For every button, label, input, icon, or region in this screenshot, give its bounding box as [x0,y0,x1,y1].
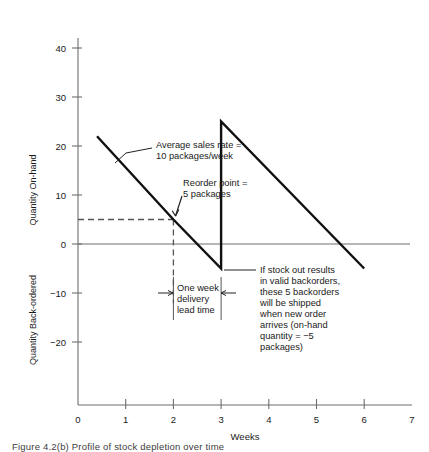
y-axis-title-lower: Quantity Back-ordered [28,275,38,365]
x-tick-label-2: 2 [171,414,176,425]
x-tick-label-7: 7 [409,414,414,425]
annot-stockout-line-7: quantity = −5 [260,331,314,341]
y-tick-label-minus-10: −10 [50,288,66,299]
annot-stockout-line-1: If stock out results [260,265,335,275]
annot-stockout-line-4: will be shipped [259,298,321,308]
x-tick-3: 3 [218,399,223,425]
annotation-reorder-point: Reorder point = 5 packages [172,178,247,216]
annotation-stock-out-backorders: If stock out results in valid backorders… [224,265,340,352]
x-tick-2: 2 [171,399,176,425]
annot-stockout-line-6: arrives (on-hand [260,320,328,330]
figure-caption: Figure 4.2(b) Profile of stock depletion… [12,441,224,452]
x-tick-6: 6 [362,399,367,425]
annot-reorder-line-1: Reorder point = [183,178,247,188]
x-tick-label-1: 1 [123,414,128,425]
annotation-average-sales-rate: Average sales rate = 10 packages/week [115,140,241,163]
annot-stockout-line-3: these 5 backorders [260,287,339,297]
annot-reorder-line-2: 5 packages [183,189,231,199]
y-tick-minus-10: −10 [50,288,82,299]
annot-lead-time-line-3: lead time [177,305,215,315]
x-tick-0: 0 [75,414,80,425]
annot-stockout-line-2: in valid backorders, [260,276,340,286]
x-tick-4: 4 [266,399,271,425]
y-axis-title-upper: Quantity On-hand [28,154,38,225]
x-tick-1: 1 [123,399,128,425]
annot-stockout-line-8: packages) [260,342,303,352]
x-tick-5: 5 [314,399,319,425]
x-tick-label-3: 3 [218,414,223,425]
y-tick-label-20: 20 [55,141,66,152]
annotation-delivery-lead-time: One week delivery lead time [158,277,236,320]
y-tick-label-10: 10 [55,190,66,201]
annot-sales-rate-line-2: 10 packages/week [156,151,233,161]
y-tick-label-0: 0 [61,239,66,250]
y-tick-label-30: 30 [55,92,66,103]
x-tick-label-4: 4 [266,414,271,425]
annot-stockout-line-5: when new order [259,309,326,319]
x-tick-label-0: 0 [75,414,80,425]
annot-lead-time-line-1: One week [177,283,219,293]
y-tick-label-minus-20: −20 [50,337,66,348]
annot-sales-rate-line-1: Average sales rate = [156,140,241,150]
x-tick-label-6: 6 [362,414,367,425]
x-tick-7: 7 [409,414,414,425]
annot-lead-time-line-2: delivery [177,294,209,304]
x-axis-title: Weeks [231,431,260,442]
y-tick-minus-20: −20 [50,337,82,348]
x-tick-label-5: 5 [314,414,319,425]
y-tick-label-40: 40 [55,43,66,54]
